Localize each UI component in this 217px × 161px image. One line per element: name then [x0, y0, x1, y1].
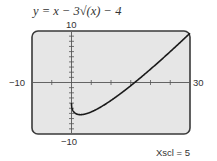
- xmin-label: −10: [9, 77, 25, 88]
- graph-window: [0, 0, 217, 161]
- ymax-label: 10: [66, 19, 77, 30]
- xscl-label: Xscl = 5: [156, 147, 190, 158]
- ymin-label: −10: [61, 136, 77, 147]
- xmax-label: 30: [193, 77, 204, 88]
